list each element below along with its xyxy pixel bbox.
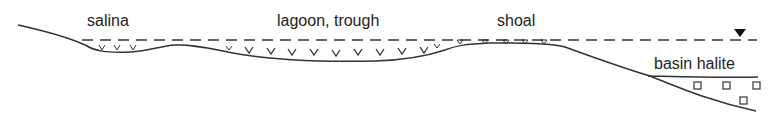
evaporite-cross-section-diagram: salina lagoon, trough shoal basin halite bbox=[0, 0, 780, 120]
gypsum-mark bbox=[99, 45, 105, 50]
gypsum-mark bbox=[434, 44, 440, 48]
gypsum-mark bbox=[288, 49, 296, 55]
gypsum-mark bbox=[226, 46, 232, 50]
gypsum-mark bbox=[376, 49, 384, 55]
halite-mark bbox=[723, 82, 730, 89]
gypsum-mark bbox=[398, 48, 406, 54]
seafloor-profile-line bbox=[18, 25, 756, 111]
basin-halite-marks bbox=[694, 82, 760, 104]
gypsum-mark bbox=[114, 45, 120, 50]
gypsum-mark bbox=[354, 49, 362, 55]
gypsum-mark bbox=[310, 49, 318, 55]
gypsum-mark bbox=[267, 48, 275, 54]
label-basin-halite: basin halite bbox=[654, 55, 735, 72]
label-shoal: shoal bbox=[497, 12, 535, 29]
gypsum-mark bbox=[130, 45, 136, 50]
gypsum-mark bbox=[420, 47, 428, 53]
lagoon-gypsum-marks bbox=[226, 44, 440, 56]
gypsum-mark bbox=[332, 50, 340, 56]
halite-mark bbox=[694, 82, 701, 89]
label-lagoon-trough: lagoon, trough bbox=[277, 12, 379, 29]
salina-gypsum-marks bbox=[99, 45, 136, 50]
water-level-triangle-icon bbox=[734, 29, 746, 37]
gypsum-mark bbox=[245, 47, 253, 53]
basin-halite-surface-line bbox=[648, 76, 758, 77]
halite-mark bbox=[740, 97, 747, 104]
halite-mark bbox=[753, 82, 760, 89]
label-salina: salina bbox=[87, 12, 129, 29]
